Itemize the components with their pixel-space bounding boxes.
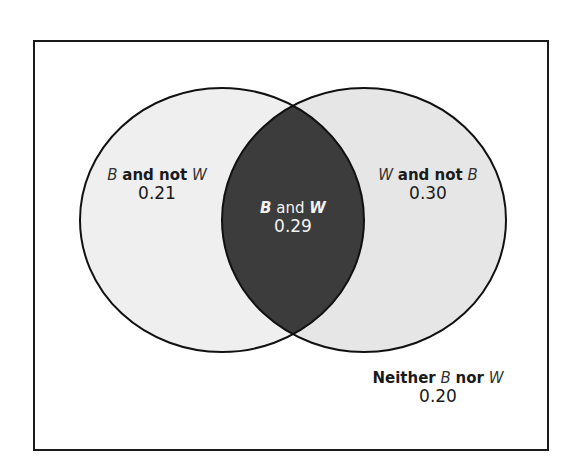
var-w: W	[309, 199, 326, 217]
neither-text: Neither	[372, 369, 435, 387]
conjunction-text: and not	[122, 166, 187, 184]
region-neither-value: 0.20	[372, 387, 503, 407]
conjunction-text: nor	[456, 369, 484, 387]
var-b: B	[468, 166, 478, 184]
var-b: B	[440, 369, 450, 387]
region-w-not-b-value: 0.30	[378, 184, 478, 204]
conjunction-text: and	[276, 199, 304, 217]
region-b-and-w-value: 0.29	[260, 217, 326, 237]
conjunction-text: and not	[398, 166, 463, 184]
var-w: W	[192, 166, 207, 184]
var-b: B	[260, 199, 271, 217]
region-b-not-w-label: B and not W 0.21	[107, 167, 207, 204]
region-neither-label: Neither B nor W 0.20	[372, 370, 503, 407]
region-w-not-b-label: W and not B 0.30	[378, 167, 478, 204]
var-b: B	[107, 166, 117, 184]
region-b-and-w-label: B and W 0.29	[260, 200, 326, 237]
region-b-not-w-value: 0.21	[107, 184, 207, 204]
var-w: W	[489, 369, 504, 387]
var-w: W	[378, 166, 393, 184]
